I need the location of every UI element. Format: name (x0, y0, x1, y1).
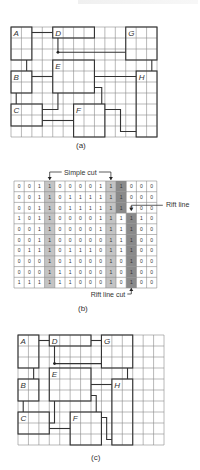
panel-c-diagram: ADGEBHCF (0, 0, 200, 470)
region-label: B (21, 381, 27, 390)
region-label: C (21, 414, 27, 423)
panel-c-caption: (c) (91, 453, 100, 462)
region-label: H (114, 381, 120, 390)
region-label: D (52, 337, 58, 346)
region-label: E (52, 370, 58, 379)
panel-c-region-f: F (70, 412, 101, 445)
junction-dot (53, 362, 56, 365)
region-label: G (104, 337, 110, 346)
region-label: F (73, 414, 79, 423)
region-label: A (20, 337, 26, 346)
panel-c-region-g: G (101, 335, 132, 368)
panel-c: ADGEBHCF (c) (0, 0, 200, 470)
